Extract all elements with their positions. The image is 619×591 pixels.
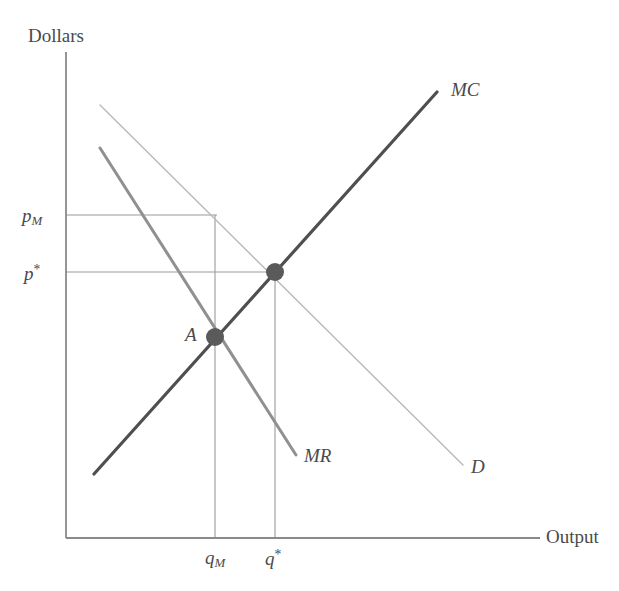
y-tick-pm-base: p — [22, 205, 32, 226]
point-a-marker — [206, 328, 224, 346]
y-tick-pm-subscript: M — [32, 213, 43, 228]
y-tick-pstar-base: p — [24, 263, 34, 284]
axes — [66, 52, 540, 538]
y-tick-pstar-superscript: * — [34, 262, 41, 277]
demand-curve — [100, 105, 463, 465]
y-tick-label-pstar: p* — [24, 263, 40, 283]
marginal-revenue-curve — [100, 148, 296, 455]
x-tick-qstar-base: q — [265, 548, 275, 569]
x-tick-qm-subscript: M — [215, 555, 226, 570]
y-tick-label-pm: pM — [22, 206, 42, 228]
point-a-label: A — [185, 325, 197, 344]
marginal-revenue-label: MR — [304, 446, 331, 465]
demand-label: D — [471, 457, 485, 476]
marginal-cost-label: MC — [451, 80, 480, 99]
economics-diagram: Dollars Output pM p* qM q* MC MR D A — [0, 0, 619, 591]
point-competitive-marker — [266, 263, 284, 281]
x-axis-title: Output — [546, 527, 599, 546]
x-tick-qm-base: q — [205, 547, 215, 568]
x-tick-qstar-superscript: * — [275, 547, 282, 562]
x-tick-label-qm: qM — [205, 548, 225, 570]
y-axis-title: Dollars — [28, 26, 84, 45]
x-tick-label-qstar: q* — [265, 548, 281, 568]
diagram-canvas — [0, 0, 619, 591]
